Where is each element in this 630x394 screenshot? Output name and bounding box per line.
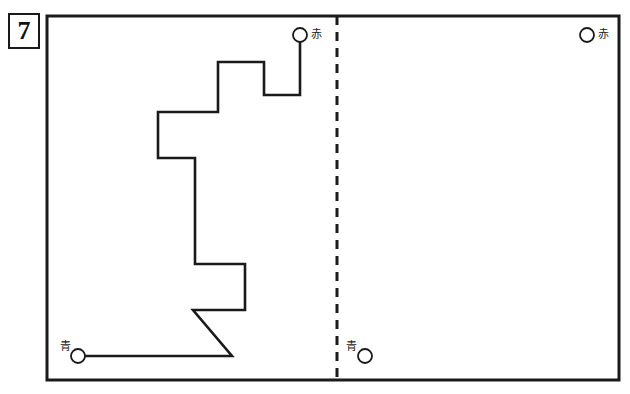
question-number-box: 7 — [8, 13, 40, 49]
terminal-label-red-target: 赤 — [598, 29, 609, 40]
worksheet-canvas: 7 赤赤青青 — [0, 0, 630, 394]
figure-svg — [0, 0, 630, 394]
question-number-label: 7 — [18, 18, 31, 44]
puzzle-frame-border — [47, 16, 619, 380]
terminal-circle-blue-start — [71, 349, 85, 363]
terminal-circle-red-start — [293, 28, 307, 42]
terminal-circle-red-target — [580, 28, 594, 42]
terminal-label-blue-target: 青 — [346, 341, 357, 352]
terminal-label-red-start: 赤 — [311, 29, 322, 40]
terminal-circle-blue-target — [358, 349, 372, 363]
terminal-label-blue-start: 青 — [60, 341, 71, 352]
